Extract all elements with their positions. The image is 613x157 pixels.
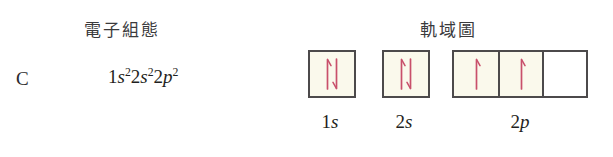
spin-up-arrow-icon: [472, 58, 481, 90]
electron-arrow-pair: [384, 52, 428, 96]
spin-down-arrow-icon: [332, 58, 341, 90]
orbital-group-2s: [382, 50, 430, 98]
electron-arrow-single: [500, 52, 542, 96]
orbital-diagram: 1s 2s 2p: [0, 0, 613, 157]
orbital-box-row: [382, 50, 430, 98]
label-shell-number: 2: [511, 111, 521, 132]
label-orbital-letter: p: [520, 111, 530, 132]
orbital-label-2p: 2p: [452, 112, 588, 131]
electron-arrow-pair: [310, 52, 354, 96]
orbital-box: [498, 52, 542, 96]
orbital-label-2s: 2s: [382, 112, 426, 131]
label-shell-number: 2: [396, 111, 406, 132]
orbital-box-row: [452, 50, 588, 98]
orbital-box: [310, 52, 354, 96]
orbital-box: [454, 52, 498, 96]
orbital-box: [542, 52, 586, 96]
spin-up-arrow-icon: [323, 58, 332, 90]
spin-down-arrow-icon: [406, 58, 415, 90]
orbital-box-row: [308, 50, 356, 98]
orbital-group-2p: [452, 50, 588, 98]
label-orbital-letter: s: [405, 111, 412, 132]
electron-arrow-empty: [544, 52, 586, 96]
orbital-label-1s: 1s: [308, 112, 352, 131]
spin-up-arrow-icon: [517, 58, 526, 90]
orbital-group-1s: [308, 50, 356, 98]
label-shell-number: 1: [322, 111, 332, 132]
orbital-box: [384, 52, 428, 96]
spin-up-arrow-icon: [397, 58, 406, 90]
electron-arrow-single: [454, 52, 498, 96]
label-orbital-letter: s: [331, 111, 338, 132]
